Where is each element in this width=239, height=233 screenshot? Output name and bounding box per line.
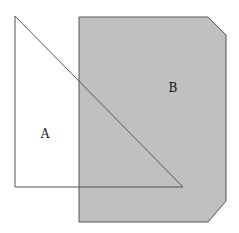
- label-a: A: [40, 127, 50, 141]
- label-b: B: [169, 81, 178, 95]
- shape-b-polygon: [79, 17, 226, 222]
- diagram-canvas: A B: [0, 0, 239, 233]
